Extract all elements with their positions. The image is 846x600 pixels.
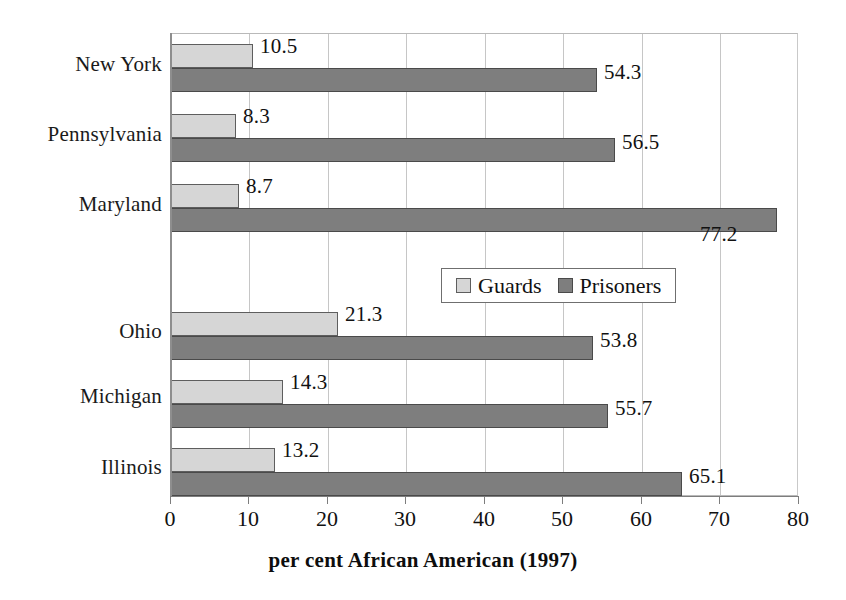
x-tick-label-20: 20	[316, 506, 338, 532]
bar-guards-ohio	[171, 312, 338, 336]
x-tick-label-10: 10	[237, 506, 259, 532]
bar-prisoners-ohio	[171, 336, 593, 360]
value-label-prisoners-maryland: 77.2	[700, 222, 738, 247]
x-tick-label-70: 70	[708, 506, 730, 532]
bar-prisoners-new-york	[171, 68, 597, 92]
value-label-prisoners-ohio: 53.8	[600, 328, 638, 353]
x-tick-70	[719, 497, 720, 504]
gridline-60	[642, 34, 643, 495]
bar-guards-michigan	[171, 380, 283, 404]
bar-prisoners-michigan	[171, 404, 608, 428]
x-tick-label-0: 0	[165, 506, 176, 532]
x-tick-label-40: 40	[473, 506, 495, 532]
chart-legend: Guards Prisoners	[441, 268, 676, 303]
value-label-guards-new-york: 10.5	[260, 34, 298, 59]
category-label-new-york: New York	[2, 52, 162, 77]
category-label-maryland: Maryland	[2, 192, 162, 217]
x-tick-label-60: 60	[630, 506, 652, 532]
category-label-ohio: Ohio	[2, 319, 162, 344]
x-tick-20	[327, 497, 328, 504]
plot-area	[170, 33, 798, 496]
value-label-guards-maryland: 8.7	[246, 174, 273, 199]
x-tick-80	[798, 497, 799, 504]
value-label-guards-ohio: 21.3	[345, 302, 383, 327]
bar-guards-maryland	[171, 184, 239, 208]
value-label-guards-michigan: 14.3	[290, 370, 328, 395]
gridline-70	[720, 34, 721, 495]
value-label-prisoners-illinois: 65.1	[689, 464, 727, 489]
legend-swatch-prisoners-icon	[558, 278, 573, 293]
y-axis-line	[170, 33, 172, 497]
value-label-guards-illinois: 13.2	[282, 438, 320, 463]
chart-figure: New York Pennsylvania Maryland Ohio Mich…	[0, 0, 846, 600]
legend-label-prisoners: Prisoners	[580, 273, 662, 299]
value-label-prisoners-new-york: 54.3	[604, 60, 642, 85]
x-tick-50	[562, 497, 563, 504]
legend-entry-prisoners: Prisoners	[558, 273, 662, 299]
x-tick-60	[641, 497, 642, 504]
bar-prisoners-illinois	[171, 472, 682, 496]
category-axis-labels: New York Pennsylvania Maryland Ohio Mich…	[0, 0, 162, 600]
x-tick-10	[248, 497, 249, 504]
category-label-illinois: Illinois	[2, 455, 162, 480]
x-axis-title: per cent African American (1997)	[0, 548, 846, 573]
legend-entry-guards: Guards	[456, 273, 542, 299]
legend-swatch-guards-icon	[456, 278, 471, 293]
bar-prisoners-pennsylvania	[171, 138, 615, 162]
value-label-guards-pennsylvania: 8.3	[243, 104, 270, 129]
bar-guards-illinois	[171, 448, 275, 472]
legend-label-guards: Guards	[478, 273, 542, 299]
x-tick-label-30: 30	[394, 506, 416, 532]
bar-prisoners-maryland	[171, 208, 777, 232]
x-tick-30	[405, 497, 406, 504]
category-label-pennsylvania: Pennsylvania	[2, 122, 162, 147]
x-tick-label-50: 50	[551, 506, 573, 532]
x-tick-40	[484, 497, 485, 504]
category-label-michigan: Michigan	[2, 384, 162, 409]
x-tick-0	[170, 497, 171, 504]
bar-guards-pennsylvania	[171, 114, 236, 138]
x-tick-label-80: 80	[787, 506, 809, 532]
value-label-prisoners-michigan: 55.7	[615, 396, 653, 421]
bar-guards-new-york	[171, 44, 253, 68]
value-label-prisoners-pennsylvania: 56.5	[622, 130, 660, 155]
